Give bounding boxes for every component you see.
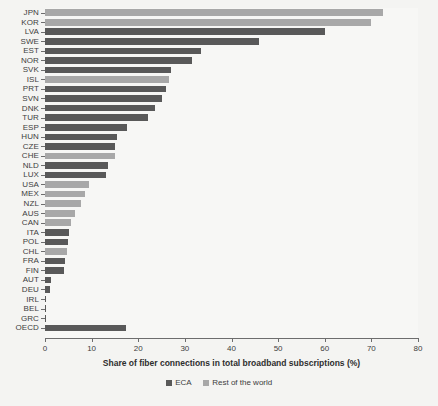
bar-row: ITA: [0, 228, 438, 238]
x-tick-label-40: 40: [227, 344, 236, 354]
bar-row: CZE: [0, 142, 438, 152]
x-tick: [185, 338, 186, 342]
bar-grc: [45, 315, 46, 322]
x-tick-label-30: 30: [180, 344, 189, 354]
category-label-est: EST: [0, 46, 39, 56]
x-tick-label-70: 70: [367, 344, 376, 354]
category-label-mex: MEX: [0, 189, 39, 199]
legend-item-rest-of-the-world[interactable]: Rest of the world: [203, 378, 273, 387]
legend-swatch-icon: [203, 380, 209, 386]
category-label-lva: LVA: [0, 27, 39, 37]
bar-aus: [45, 210, 75, 217]
bar-row: NZL: [0, 199, 438, 209]
category-label-kor: KOR: [0, 18, 39, 28]
bar-row: CHE: [0, 151, 438, 161]
bar-row: SWE: [0, 37, 438, 47]
bar-svn: [45, 95, 162, 102]
bar-nzl: [45, 200, 81, 207]
category-label-swe: SWE: [0, 37, 39, 47]
bar-nor: [45, 57, 192, 64]
x-tick: [45, 338, 46, 342]
category-label-ita: ITA: [0, 228, 39, 238]
bar-fra: [45, 258, 65, 265]
chart-legend: ECARest of the world: [0, 378, 438, 387]
bar-row: NLD: [0, 161, 438, 171]
bar-ita: [45, 229, 69, 236]
bar-nld: [45, 162, 108, 169]
x-tick: [232, 338, 233, 342]
x-axis-ticks: 01020304050607080: [0, 338, 438, 352]
bar-row: EST: [0, 46, 438, 56]
bar-row: DNK: [0, 104, 438, 114]
category-label-grc: GRC: [0, 314, 39, 324]
bar-lva: [45, 28, 325, 35]
legend-swatch-icon: [166, 380, 172, 386]
category-label-svn: SVN: [0, 94, 39, 104]
bar-row: SVN: [0, 94, 438, 104]
x-tick-label-20: 20: [134, 344, 143, 354]
bar-row: IRL: [0, 295, 438, 305]
category-label-esp: ESP: [0, 123, 39, 133]
bar-fin: [45, 267, 64, 274]
category-label-dnk: DNK: [0, 104, 39, 114]
category-label-nzl: NZL: [0, 199, 39, 209]
fiber-share-bar-chart: JPNKORLVASWEESTNORSVKISLPRTSVNDNKTURESPH…: [0, 0, 438, 406]
bar-rows: JPNKORLVASWEESTNORSVKISLPRTSVNDNKTURESPH…: [0, 8, 438, 338]
bar-isl: [45, 76, 169, 83]
bar-esp: [45, 124, 127, 131]
bar-deu: [45, 286, 50, 293]
x-tick: [278, 338, 279, 342]
bar-row: LUX: [0, 170, 438, 180]
x-tick: [371, 338, 372, 342]
legend-label: ECA: [175, 378, 191, 387]
x-tick-label-0: 0: [43, 344, 47, 354]
category-label-che: CHE: [0, 151, 39, 161]
bar-row: BEL: [0, 304, 438, 314]
category-label-chl: CHL: [0, 247, 39, 257]
bar-row: USA: [0, 180, 438, 190]
category-label-hun: HUN: [0, 132, 39, 142]
bar-irl: [45, 296, 46, 303]
bar-row: ISL: [0, 75, 438, 85]
x-tick-label-50: 50: [274, 344, 283, 354]
category-label-tur: TUR: [0, 113, 39, 123]
bar-cze: [45, 143, 115, 150]
bar-row: TUR: [0, 113, 438, 123]
bar-row: FIN: [0, 266, 438, 276]
bar-mex: [45, 191, 85, 198]
bar-swe: [45, 38, 259, 45]
bar-tur: [45, 114, 148, 121]
bar-svk: [45, 67, 171, 74]
category-label-usa: USA: [0, 180, 39, 190]
x-tick-label-60: 60: [320, 344, 329, 354]
x-tick: [418, 338, 419, 342]
category-label-oecd: OECD: [0, 323, 39, 333]
category-label-bel: BEL: [0, 304, 39, 314]
x-tick: [92, 338, 93, 342]
bar-row: POL: [0, 237, 438, 247]
bar-can: [45, 219, 71, 226]
bar-chl: [45, 248, 67, 255]
bar-usa: [45, 181, 89, 188]
category-label-aut: AUT: [0, 275, 39, 285]
bar-row: CAN: [0, 218, 438, 228]
category-label-fra: FRA: [0, 256, 39, 266]
bar-pol: [45, 239, 68, 246]
bar-lux: [45, 172, 106, 179]
category-label-svk: SVK: [0, 65, 39, 75]
bar-est: [45, 48, 201, 55]
legend-label: Rest of the world: [212, 378, 272, 387]
category-label-cze: CZE: [0, 142, 39, 152]
category-label-jpn: JPN: [0, 8, 39, 18]
category-label-lux: LUX: [0, 170, 39, 180]
bar-row: KOR: [0, 18, 438, 28]
bar-row: AUT: [0, 275, 438, 285]
category-label-deu: DEU: [0, 285, 39, 295]
bar-oecd: [45, 325, 126, 332]
x-tick: [325, 338, 326, 342]
bar-row: PRT: [0, 84, 438, 94]
legend-item-eca[interactable]: ECA: [166, 378, 192, 387]
bar-row: SVK: [0, 65, 438, 75]
category-label-pol: POL: [0, 237, 39, 247]
x-tick-label-80: 80: [414, 344, 423, 354]
